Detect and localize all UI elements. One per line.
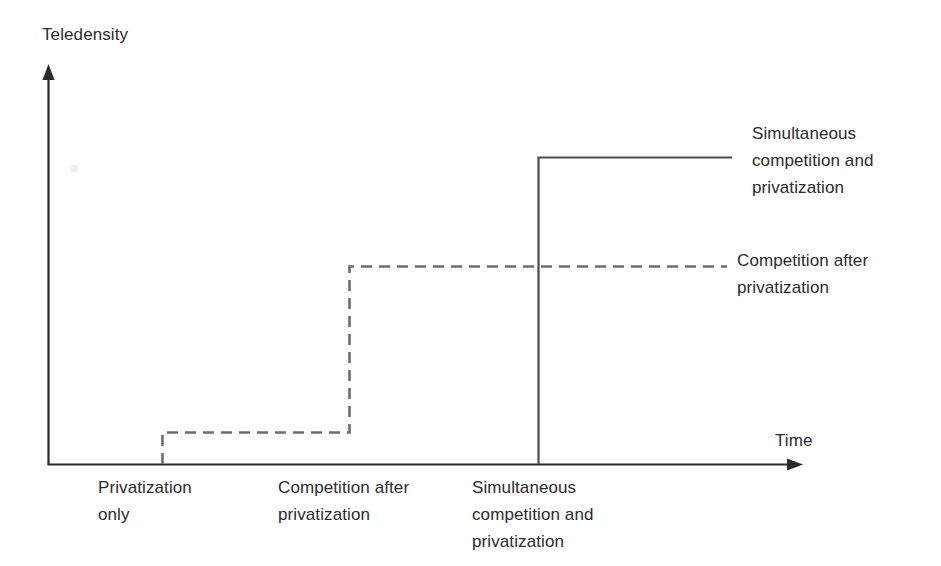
legend-label-competition-after: Competition after privatization bbox=[737, 247, 868, 301]
y-axis-title: Teledensity bbox=[42, 21, 128, 48]
x-axis-title: Time bbox=[775, 427, 813, 454]
series-solid-simultaneous-competition-privatization bbox=[539, 158, 733, 465]
chart-canvas: Teledensity Time Simultaneous competitio… bbox=[0, 0, 941, 566]
x-tick-label-privatization-only: Privatization only bbox=[98, 474, 192, 528]
x-tick-label-simultaneous-competition-privatization: Simultaneous competition and privatizati… bbox=[472, 474, 594, 555]
scan-artifact-speck bbox=[71, 165, 78, 172]
x-tick-label-competition-after-privatization: Competition after privatization bbox=[278, 474, 409, 528]
legend-label-simultaneous: Simultaneous competition and privatizati… bbox=[752, 120, 874, 201]
series-dashed-competition-after-privatization bbox=[163, 267, 728, 465]
